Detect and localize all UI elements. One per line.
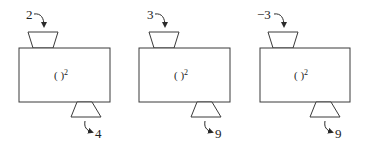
input-value: −3 <box>257 7 271 22</box>
input-hopper <box>268 32 298 48</box>
input-value: 3 <box>147 7 154 22</box>
input-arrow-icon <box>274 14 284 26</box>
output-hopper <box>71 102 101 117</box>
output-value: 9 <box>335 126 342 141</box>
input-arrow-icon <box>155 14 165 26</box>
output-value: 4 <box>95 126 102 141</box>
output-arrow-icon <box>85 121 92 132</box>
function-machine-3: −3 ( )2 9 <box>257 7 350 141</box>
input-hopper <box>28 32 58 48</box>
function-machines-diagram: 2 ( )2 4 3 ( )2 9 −3 ( )2 9 <box>0 0 368 150</box>
input-arrow-icon <box>34 14 44 26</box>
output-arrow-icon <box>325 121 332 132</box>
output-arrow-icon <box>205 121 212 132</box>
function-machine-1: 2 ( )2 4 <box>19 7 110 141</box>
output-hopper <box>310 102 340 117</box>
output-value: 9 <box>215 126 222 141</box>
output-hopper <box>191 102 221 117</box>
input-value: 2 <box>26 7 33 22</box>
input-hopper <box>149 32 179 48</box>
function-machine-2: 3 ( )2 9 <box>139 7 230 141</box>
